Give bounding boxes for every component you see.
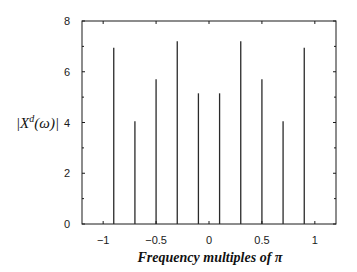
x-axis-label: Frequency multiples of π <box>137 250 283 265</box>
x-tick-label: 0 <box>206 234 212 246</box>
x-tick-label: 0.5 <box>254 234 269 246</box>
chart-canvas: −1−0.500.51 02468 |Xd(ω)| Frequency mult… <box>0 0 357 272</box>
y-axis-label: |Xd(ω)| <box>16 113 59 132</box>
x-tick-label: −0.5 <box>145 234 167 246</box>
stem-chart: −1−0.500.51 02468 |Xd(ω)| Frequency mult… <box>0 0 357 272</box>
y-tick-label: 0 <box>64 218 70 230</box>
stem-series <box>114 41 305 224</box>
plot-frame <box>82 21 336 224</box>
y-tick-label: 6 <box>64 66 70 78</box>
y-tick-label: 8 <box>64 15 70 27</box>
y-tick-label: 4 <box>64 117 70 129</box>
x-axis-ticks: −1−0.500.51 <box>97 21 318 246</box>
x-tick-label: −1 <box>97 234 110 246</box>
y-axis-ticks: 02468 <box>64 15 336 230</box>
x-tick-label: 1 <box>312 234 318 246</box>
y-tick-label: 2 <box>64 167 70 179</box>
